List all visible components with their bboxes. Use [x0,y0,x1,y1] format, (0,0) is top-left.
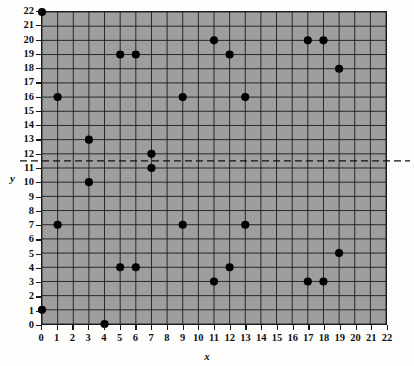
x-tick-mark [214,325,215,330]
x-axis-label: x [0,350,414,362]
y-tick-mark [36,168,41,169]
y-tick-mark [36,254,41,255]
x-tick-mark [198,325,199,330]
x-tick-mark [277,325,278,330]
x-tick-label: 15 [272,333,283,344]
x-tick-label: 19 [335,333,346,344]
y-tick-label: 3 [6,277,34,288]
y-tick-mark [36,225,41,226]
x-tick-label: 14 [256,333,267,344]
x-tick-mark [167,325,168,330]
y-tick-mark [36,54,41,55]
x-tick-mark [324,325,325,330]
y-tick-mark [36,282,41,283]
x-tick-mark [72,325,73,330]
y-tick-mark [36,268,41,269]
x-tick-label: 3 [86,333,91,344]
y-tick-label: 14 [6,120,34,131]
x-tick-mark [293,325,294,330]
y-tick-mark [36,154,41,155]
x-tick-label: 9 [180,333,185,344]
x-tick-mark [88,325,89,330]
x-tick-label: 20 [350,333,361,344]
x-tick-label: 10 [193,333,204,344]
x-tick-label: 4 [101,333,106,344]
reference-line [0,0,414,366]
y-tick-label: 1 [6,305,34,316]
y-tick-mark [36,40,41,41]
y-tick-label: 21 [6,20,34,31]
x-tick-label: 1 [54,333,59,344]
y-tick-label: 13 [6,134,34,145]
y-tick-mark [36,211,41,212]
y-tick-mark [36,239,41,240]
y-tick-label: 4 [6,263,34,274]
y-tick-label: 12 [6,148,34,159]
y-tick-label: 5 [6,248,34,259]
x-tick-mark [151,325,152,330]
y-tick-mark [36,97,41,98]
x-tick-mark [104,325,105,330]
y-tick-mark [36,197,41,198]
y-tick-mark [36,11,41,12]
x-tick-label: 6 [133,333,138,344]
y-tick-label: 6 [6,234,34,245]
y-tick-label: 17 [6,77,34,88]
y-tick-mark [36,82,41,83]
y-tick-mark [36,111,41,112]
y-tick-label: 18 [6,63,34,74]
x-tick-mark [245,325,246,330]
x-tick-mark [230,325,231,330]
x-tick-mark [387,325,388,330]
y-tick-mark [36,296,41,297]
x-tick-label: 5 [117,333,122,344]
y-axis-label: y [10,172,15,184]
y-tick-mark [36,25,41,26]
x-tick-label: 13 [240,333,251,344]
y-tick-mark [36,68,41,69]
scatter-plot-figure: (0, 22)(0, 1)(1, 16)(1, 7)(3, 13)(3, 10)… [0,0,414,366]
y-tick-label: 15 [6,106,34,117]
x-tick-mark [371,325,372,330]
x-tick-mark [183,325,184,330]
x-tick-label: 7 [148,333,153,344]
x-tick-mark [57,325,58,330]
x-tick-mark [41,325,42,330]
y-tick-label: 16 [6,91,34,102]
x-tick-label: 12 [224,333,235,344]
y-tick-label: 20 [6,34,34,45]
y-tick-label: 0 [6,320,34,331]
x-tick-mark [120,325,121,330]
x-tick-mark [356,325,357,330]
x-tick-label: 8 [164,333,169,344]
y-tick-label: 9 [6,191,34,202]
x-tick-label: 11 [209,333,219,344]
x-tick-label: 18 [319,333,330,344]
y-tick-label: 19 [6,49,34,60]
x-tick-label: 17 [303,333,314,344]
x-tick-label: 2 [70,333,75,344]
y-tick-mark [36,311,41,312]
x-tick-mark [135,325,136,330]
x-tick-mark [261,325,262,330]
y-tick-label: 22 [6,6,34,17]
y-tick-label: 7 [6,220,34,231]
y-tick-mark [36,125,41,126]
y-tick-mark [36,139,41,140]
x-tick-label: 16 [287,333,298,344]
x-tick-label: 22 [382,333,393,344]
y-tick-label: 8 [6,206,34,217]
x-tick-label: 21 [366,333,377,344]
x-tick-mark [340,325,341,330]
y-tick-mark [36,182,41,183]
y-tick-label: 2 [6,291,34,302]
x-tick-label: 0 [38,333,43,344]
x-tick-mark [308,325,309,330]
